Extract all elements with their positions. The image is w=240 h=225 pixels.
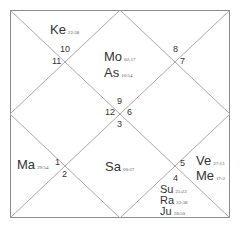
planet-ascendant: As10:54 — [104, 66, 133, 79]
planet-name: Sa — [105, 159, 121, 174]
planet-name: As — [104, 65, 119, 80]
house-number-11: 11 — [52, 57, 61, 66]
planet-name: Ve — [196, 153, 211, 168]
planet-name: Ke — [50, 22, 66, 37]
planet-degree: 00:37 — [123, 167, 134, 172]
planet-degree: 29:54 — [37, 165, 48, 170]
house-number-5: 5 — [180, 159, 185, 168]
house-number-2: 2 — [62, 170, 67, 179]
planet-jupiter: Ju18:50 — [160, 206, 185, 217]
chart-grid — [0, 0, 240, 225]
planet-saturn: Sa00:37 — [105, 160, 134, 173]
planet-name: Me — [196, 168, 214, 183]
planet-degree: 02:17 — [124, 57, 135, 62]
planet-degree: 18:50 — [174, 211, 185, 216]
house-number-9: 9 — [117, 97, 122, 106]
house-number-12: 12 — [105, 108, 115, 117]
house-number-1: 1 — [55, 158, 60, 167]
planet-moon: Mo02:17 — [104, 50, 135, 63]
house-number-6: 6 — [127, 108, 132, 117]
planet-ketu: Ke22:38 — [50, 23, 79, 36]
planet-name: Ju — [160, 205, 172, 217]
planet-degree: 25:22 — [175, 189, 186, 194]
planet-degree: 17:2 — [216, 176, 225, 181]
house-number-4: 4 — [173, 174, 178, 183]
house-number-10: 10 — [60, 45, 70, 54]
planet-venus: Ve27:13 — [196, 154, 225, 167]
house-number-7: 7 — [180, 57, 185, 66]
house-number-3: 3 — [117, 120, 122, 129]
planet-degree: 27:13 — [213, 161, 224, 166]
planet-degree: 22:38 — [176, 200, 187, 205]
planet-mars: Ma29:54 — [17, 158, 48, 171]
planet-name: Mo — [104, 49, 122, 64]
planet-name: Ma — [17, 157, 35, 172]
house-number-8: 8 — [173, 45, 178, 54]
planet-mercury: Me17:2 — [196, 169, 225, 182]
planet-degree: 22:38 — [68, 30, 79, 35]
planet-degree: 10:54 — [121, 73, 132, 78]
